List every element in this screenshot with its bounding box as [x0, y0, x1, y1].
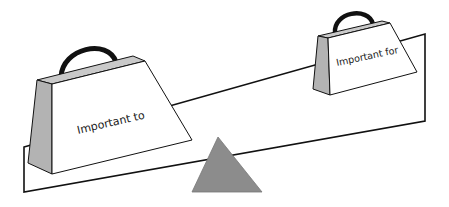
right-weight-side — [313, 36, 330, 95]
seesaw-diagram: Important to Important for — [0, 0, 449, 207]
left-weight-side — [28, 80, 52, 174]
